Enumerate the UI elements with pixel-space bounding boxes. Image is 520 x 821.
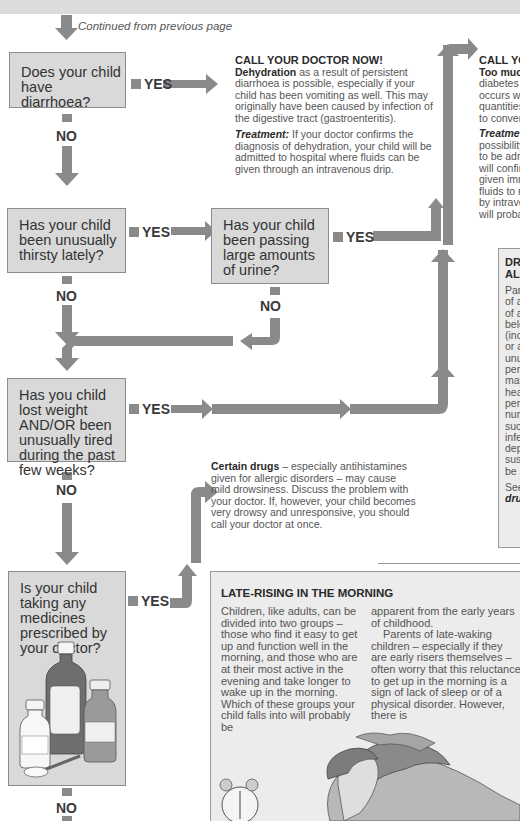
square-marker-icon [131,79,141,89]
outcome-diabetes: CALL YO Too muc diabetes occurs w quanti… [479,55,520,220]
side-panel-text: DROW ALCOH Parentsof age sof abusbelong(… [505,256,520,505]
yes-label: YES [129,224,170,240]
question-text: Has you child lost weight AND/OR been un… [19,387,115,478]
no-label: NO [56,800,77,816]
continued-note: Continued from previous page [78,20,232,32]
no-label: NO [56,128,77,144]
no-label: NO [260,298,281,314]
question-text: Has your child been unusually thirsty la… [19,217,117,263]
question-text: Does your child have diarrhoea? [21,64,121,110]
see-also-link[interactable]: drug ab [505,493,520,504]
sleeping-child-illustration [210,725,520,821]
question-box-urine: Has your child been passing large amount… [211,208,329,284]
yes-label: YES [129,401,170,417]
late-rising-col1: Children, like adults, can be divided in… [221,606,361,734]
yes-label: YES [131,76,172,92]
outcome-term: Certain drugs [211,460,279,472]
no-label: NO [56,482,77,498]
late-rising-col2: apparent from the early years of childho… [371,606,520,722]
no-label: NO [56,288,77,304]
question-box-weight-loss: Has you child lost weight AND/OR been un… [7,378,126,462]
medicine-bottles-illustration [14,640,124,780]
question-box-thirsty: Has your child been unusually thirsty la… [7,208,126,273]
question-box-diarrhoea: Does your child have diarrhoea? [9,52,126,108]
treatment-label: Treatment: [235,128,289,140]
late-rising-title: LATE-RISING IN THE MORNING [221,587,393,599]
yes-label: YES [128,593,169,609]
yes-label: YES [333,229,374,245]
page-top-band [0,0,520,14]
divider [378,563,520,564]
outcome-term: Dehydration [235,66,296,78]
outcome-certain-drugs: Certain drugs – especially antihistamine… [211,461,416,535]
outcome-dehydration: CALL YOUR DOCTOR NOW! Dehydration as a r… [235,55,435,180]
question-text: Has your child been passing large amount… [223,217,315,278]
